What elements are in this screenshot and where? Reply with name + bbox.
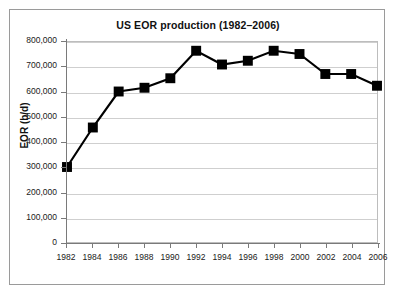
data-point-marker [295,49,305,59]
data-point-marker [88,123,98,133]
y-tick-label: 200,000 [1,187,57,197]
x-tick-mark [300,244,301,248]
y-tick-mark [61,117,66,118]
x-tick-mark [144,244,145,248]
data-point-marker [372,81,382,91]
y-tick-label: 600,000 [1,86,57,96]
y-axis-line [66,39,67,245]
y-tick-label: 800,000 [1,35,57,45]
chart-title: US EOR production (1982–2006) [20,19,376,31]
y-tick-mark [61,167,66,168]
data-point-marker [140,83,150,93]
x-tick-mark [248,244,249,248]
y-tick-label: 400,000 [1,136,57,146]
x-tick-mark [378,244,379,248]
data-point-marker [320,69,330,79]
y-tick-mark [61,41,66,42]
plot-area [66,41,378,243]
x-tick-mark [222,244,223,248]
x-tick-mark [352,244,353,248]
y-tick-label: 700,000 [1,60,57,70]
x-tick-mark [66,244,67,248]
y-tick-mark [61,218,66,219]
y-tick-label: 300,000 [1,161,57,171]
x-tick-mark [118,244,119,248]
data-point-marker [165,73,175,83]
y-tick-mark [61,92,66,93]
x-tick-mark [170,244,171,248]
data-point-marker [269,46,279,56]
x-tick-mark [274,244,275,248]
y-tick-label: 100,000 [1,212,57,222]
data-point-marker [217,60,227,70]
data-point-marker [114,87,124,97]
data-point-marker [346,69,356,79]
y-tick-mark [61,142,66,143]
chart-figure: US EOR production (1982–2006) EOR (b/d) … [0,0,397,296]
y-tick-mark [61,66,66,67]
x-tick-mark [196,244,197,248]
x-tick-mark [92,244,93,248]
data-point-marker [191,46,201,56]
y-tick-label: 0 [1,237,57,247]
x-tick-mark [326,244,327,248]
x-tick-label: 2006 [358,252,397,262]
y-tick-label: 500,000 [1,111,57,121]
data-point-marker [243,56,253,66]
y-tick-mark [61,193,66,194]
data-series-line [67,42,377,242]
